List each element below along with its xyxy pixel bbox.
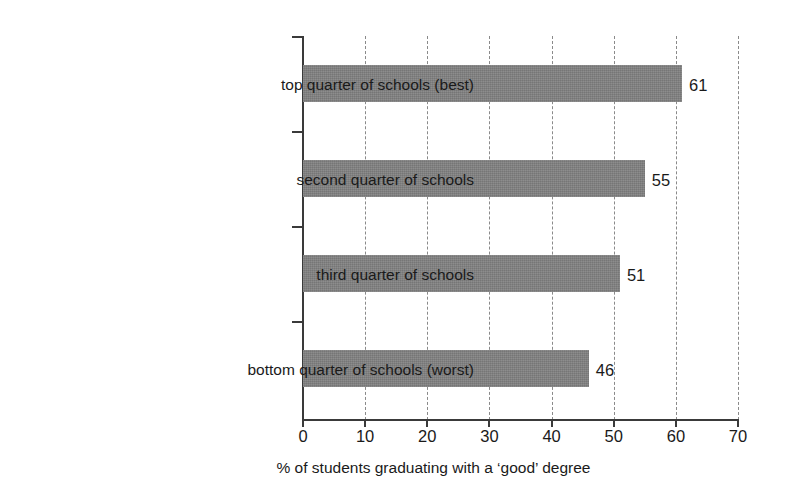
x-axis-title: % of students graduating with a ‘good’ d… bbox=[0, 459, 787, 478]
x-tick-label-10: 10 bbox=[345, 428, 385, 445]
x-tick-label-70: 70 bbox=[718, 428, 758, 445]
x-axis-tick-40 bbox=[551, 420, 553, 427]
x-tick-label-60: 60 bbox=[656, 428, 696, 445]
y-axis-tick-top bbox=[292, 36, 303, 38]
x-axis-tick-0 bbox=[302, 420, 304, 427]
gridline-70 bbox=[738, 36, 739, 420]
y-axis-tick-3 bbox=[292, 321, 303, 323]
x-axis-tick-20 bbox=[426, 420, 428, 427]
bar-value-label-0: 61 bbox=[689, 77, 707, 94]
x-axis-tick-30 bbox=[488, 420, 490, 427]
x-axis-tick-70 bbox=[737, 420, 739, 427]
bar-value-label-2: 51 bbox=[627, 267, 645, 284]
x-tick-label-30: 30 bbox=[469, 428, 509, 445]
bar-value-label-1: 55 bbox=[652, 172, 670, 189]
category-label-1: second quarter of schools bbox=[297, 172, 475, 188]
category-label-0: top quarter of schools (best) bbox=[281, 77, 474, 93]
x-axis-line bbox=[303, 419, 739, 421]
category-label-2: third quarter of schools bbox=[316, 267, 474, 283]
x-tick-label-40: 40 bbox=[532, 428, 572, 445]
x-axis-tick-60 bbox=[675, 420, 677, 427]
x-tick-label-50: 50 bbox=[594, 428, 634, 445]
x-axis-tick-50 bbox=[613, 420, 615, 427]
x-axis-tick-10 bbox=[364, 420, 366, 427]
bar-chart: 61 55 51 46 top quarter of schools (best… bbox=[0, 0, 787, 503]
y-axis-tick-1 bbox=[292, 131, 303, 133]
category-label-3: bottom quarter of schools (worst) bbox=[247, 362, 474, 378]
x-tick-label-20: 20 bbox=[407, 428, 447, 445]
bar-value-label-3: 46 bbox=[596, 362, 614, 379]
y-axis-tick-2 bbox=[292, 226, 303, 228]
x-tick-label-0: 0 bbox=[283, 428, 323, 445]
